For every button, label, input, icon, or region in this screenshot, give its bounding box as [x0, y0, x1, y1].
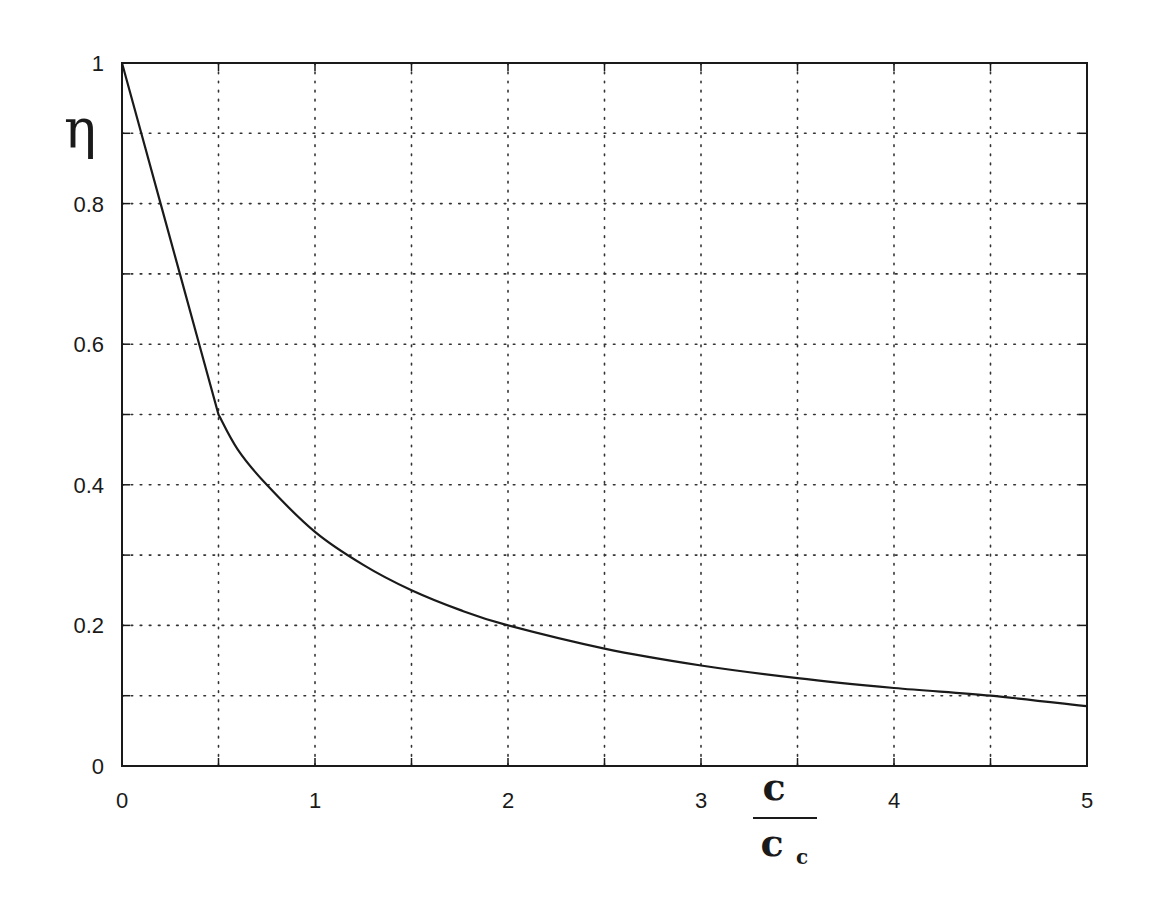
y-tick-label: 0.6 — [73, 332, 104, 357]
chart: 012345 00.20.40.60.81 η c c c — [0, 0, 1154, 903]
x-tick-label: 5 — [1081, 788, 1093, 813]
x-tick-label: 4 — [888, 788, 900, 813]
y-tick-label: 1 — [92, 51, 104, 76]
y-tick-label: 0.4 — [73, 473, 104, 498]
x-axis-label: c c c — [753, 764, 817, 869]
x-tick-label: 1 — [309, 788, 321, 813]
y-tick-label: 0.8 — [73, 192, 104, 217]
grid-lines — [122, 63, 1087, 766]
x-tick-label: 0 — [116, 788, 128, 813]
x-tick-labels: 012345 — [116, 788, 1093, 813]
x-tick-label: 3 — [695, 788, 707, 813]
x-tick-label: 2 — [502, 788, 514, 813]
y-tick-label: 0.2 — [73, 613, 104, 638]
x-label-subscript: c — [796, 845, 808, 869]
y-tick-label: 0 — [92, 754, 104, 779]
y-axis-label: η — [64, 98, 96, 161]
x-label-denominator: c — [760, 820, 783, 865]
x-label-numerator: c — [762, 764, 785, 809]
